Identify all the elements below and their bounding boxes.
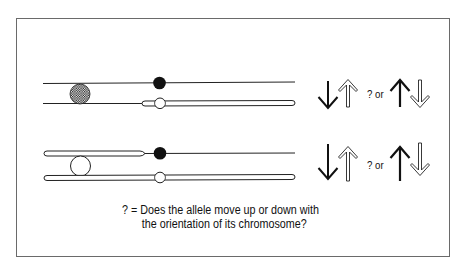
down-arrow-hollow-icon (411, 80, 430, 108)
bottom-chromosome-pair (44, 147, 295, 183)
caption-line-2: the orientation of its chromosome? (122, 217, 319, 231)
black-centromere (154, 147, 167, 160)
up-arrow-solid-icon (391, 147, 410, 181)
open-allele (71, 156, 91, 176)
figure-caption: ? = Does the allele move up or down with… (122, 203, 319, 231)
down-arrow-hollow-icon (411, 143, 430, 176)
question-or-label-row-2: ? or (367, 159, 384, 171)
up-arrow-solid-icon (391, 80, 410, 107)
up-arrow-hollow-icon (339, 147, 358, 182)
lower-chromosome-tube (44, 175, 295, 181)
question-or-label-row-1: ? or (367, 88, 384, 100)
upper-chromosome-line (145, 153, 295, 154)
caption-line-1: ? = Does the allele move up or down with (122, 203, 319, 217)
up-arrow-hollow-icon (339, 80, 358, 108)
hatched-allele (70, 84, 90, 104)
top-chromosome-pair (43, 77, 295, 109)
down-arrow-solid-icon (319, 144, 338, 179)
down-arrow-solid-icon (319, 81, 338, 108)
black-centromere (153, 77, 166, 90)
upper-chromosome-line (43, 82, 295, 84)
upper-chromosome-tube (44, 151, 145, 156)
